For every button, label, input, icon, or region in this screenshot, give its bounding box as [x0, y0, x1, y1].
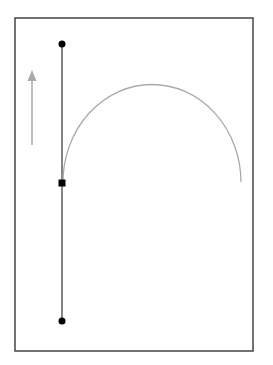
arrow-up-icon [28, 70, 37, 81]
frame-border [15, 18, 253, 351]
top-point[interactable] [59, 41, 66, 48]
semicircle-arc [63, 84, 241, 183]
diagram-canvas [0, 0, 273, 365]
midpoint-square-handle[interactable] [59, 180, 66, 187]
bottom-point[interactable] [59, 318, 66, 325]
